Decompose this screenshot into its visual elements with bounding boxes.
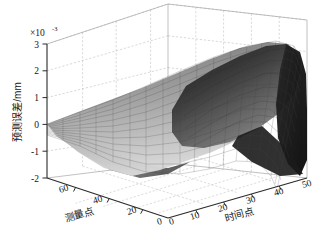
z-axis-ticks xyxy=(43,44,48,178)
z-tick-label-5: -2 xyxy=(31,174,39,184)
exponent-base: ×10 xyxy=(30,28,45,38)
x-tick-label-10: 10 xyxy=(189,210,201,222)
z-tick-label-3: 0 xyxy=(34,120,39,130)
z-tick-label-1: 2 xyxy=(34,66,39,76)
x-tick-label-50: 50 xyxy=(301,178,313,190)
x-tick-label-40: 40 xyxy=(273,186,285,198)
z-axis-exponent-label: ×10 -3 xyxy=(30,25,57,38)
x-axis-title: 时间点 xyxy=(223,204,255,224)
y-axis-title: 测量点 xyxy=(63,204,95,224)
figure-3d-surface-plot: 3 2 1 0 -1 -2 60 40 20 0 0 10 20 30 40 5… xyxy=(0,0,332,244)
x-tick-label-30: 30 xyxy=(245,194,257,206)
z-axis-title: 预测误差/mm xyxy=(11,82,23,141)
z-tick-label-0: 3 xyxy=(34,40,39,50)
z-tick-label-4: -1 xyxy=(31,147,39,157)
z-axis-tick-labels: 3 2 1 0 -1 -2 xyxy=(31,40,39,184)
y-tick-label-0: 0 xyxy=(156,216,164,227)
x-tick-label-0: 0 xyxy=(168,216,176,227)
exponent-power: -3 xyxy=(52,25,57,32)
z-tick-label-2: 1 xyxy=(34,93,39,103)
plot-canvas: 3 2 1 0 -1 -2 60 40 20 0 0 10 20 30 40 5… xyxy=(0,0,332,244)
